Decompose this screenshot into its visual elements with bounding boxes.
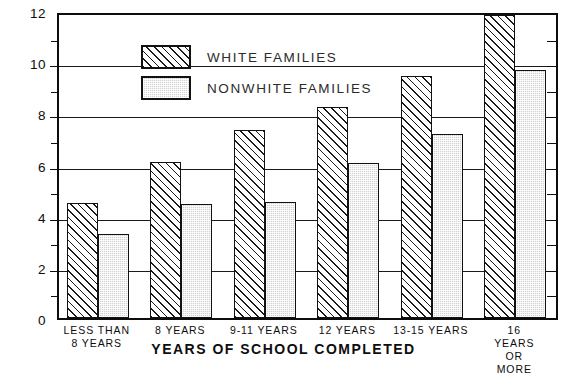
y-axis-right-tick — [547, 41, 556, 42]
bar-white-families — [67, 203, 98, 318]
y-axis-major-tick — [50, 117, 59, 118]
plot-area: WHITE FAMILIES NONWHITE FAMILIES — [57, 13, 558, 320]
bar-white-families — [484, 15, 515, 318]
bar-white-families — [317, 107, 348, 318]
y-axis-tick-label: 0 — [38, 313, 46, 328]
y-axis-right-tick — [547, 143, 556, 144]
y-axis-right-tick — [547, 245, 556, 246]
x-axis-title: YEARS OF SCHOOL COMPLETED — [0, 341, 567, 357]
y-axis-right-tick — [547, 92, 556, 93]
y-axis-minor-tick — [51, 245, 59, 246]
bar-nonwhite-families — [348, 163, 379, 318]
legend-label-nonwhite-families: NONWHITE FAMILIES — [207, 81, 372, 96]
legend-label-white-families: WHITE FAMILIES — [207, 50, 337, 65]
y-axis-major-tick — [50, 169, 59, 170]
x-axis-tick-label: 12 YEARS — [319, 324, 376, 337]
y-axis-tick-label: 2 — [38, 261, 46, 276]
y-axis-minor-tick — [51, 143, 59, 144]
bar-white-families — [234, 130, 265, 318]
y-axis-minor-tick — [51, 92, 59, 93]
legend-swatch-white-families — [141, 45, 191, 69]
x-axis-tick-label: 8 YEARS — [155, 324, 205, 337]
y-axis-major-tick — [50, 66, 59, 67]
x-axis-tick-label: 13-15 YEARS — [393, 324, 468, 337]
bar-nonwhite-families — [181, 204, 212, 318]
y-axis-tick-label: 6 — [38, 159, 46, 174]
bar-white-families — [150, 162, 181, 318]
y-axis-major-tick — [50, 271, 59, 272]
legend: WHITE FAMILIES NONWHITE FAMILIES — [141, 45, 372, 107]
y-axis-major-tick — [50, 220, 59, 221]
bar-nonwhite-families — [432, 134, 463, 318]
y-axis-minor-tick — [51, 41, 59, 42]
y-axis-tick-label: 8 — [38, 108, 46, 123]
legend-swatch-nonwhite-families — [141, 76, 191, 100]
legend-item-nonwhite-families: NONWHITE FAMILIES — [141, 76, 372, 100]
y-axis-right-tick — [547, 220, 556, 221]
gridline — [59, 220, 556, 221]
bar-nonwhite-families — [515, 70, 546, 318]
gridline — [59, 117, 556, 118]
bar-white-families — [401, 76, 432, 318]
y-axis-minor-tick — [51, 296, 59, 297]
y-axis-tick-label: 12 — [30, 6, 46, 21]
y-axis-right-tick — [547, 169, 556, 170]
bar-nonwhite-families — [98, 234, 129, 318]
y-axis-right-tick — [547, 271, 556, 272]
gridline — [59, 271, 556, 272]
y-axis-right-tick — [547, 66, 556, 67]
x-axis-tick-label: 9-11 YEARS — [230, 324, 298, 337]
legend-item-white-families: WHITE FAMILIES — [141, 45, 372, 69]
y-axis-right-tick — [547, 194, 556, 195]
y-axis-labels: 024681012 — [0, 0, 52, 369]
gridline — [59, 169, 556, 170]
y-axis-tick-label: 10 — [30, 57, 46, 72]
y-axis-tick-label: 4 — [38, 210, 46, 225]
bar-nonwhite-families — [265, 202, 296, 318]
y-axis-right-tick — [547, 117, 556, 118]
y-axis-minor-tick — [51, 194, 59, 195]
y-axis-right-tick — [547, 296, 556, 297]
